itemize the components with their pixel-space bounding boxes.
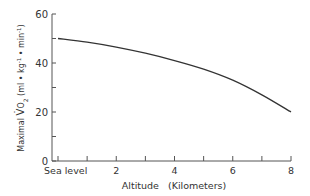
y-axis-label: Maximal V̇O2 (ml • kg-1 • min-1) xyxy=(14,24,28,151)
x-axis-label: Altitude (Kilometers) xyxy=(122,180,226,191)
x-axis-ticks: Sea level2468 xyxy=(44,156,294,176)
y-tick-label: 40 xyxy=(35,58,48,69)
data-line xyxy=(58,39,291,113)
axes xyxy=(52,14,291,161)
chart: 0204060 Sea level2468 Altitude (Kilomete… xyxy=(0,0,310,196)
x-tick-label: 6 xyxy=(230,165,236,176)
x-tick-label: 4 xyxy=(171,165,177,176)
x-tick-label: Sea level xyxy=(44,165,87,176)
y-axis-ticks: 0204060 xyxy=(35,9,56,167)
y-tick-label: 60 xyxy=(35,9,48,20)
x-tick-label: 8 xyxy=(288,165,294,176)
y-tick-label: 20 xyxy=(35,107,48,118)
x-tick-label: 2 xyxy=(113,165,119,176)
